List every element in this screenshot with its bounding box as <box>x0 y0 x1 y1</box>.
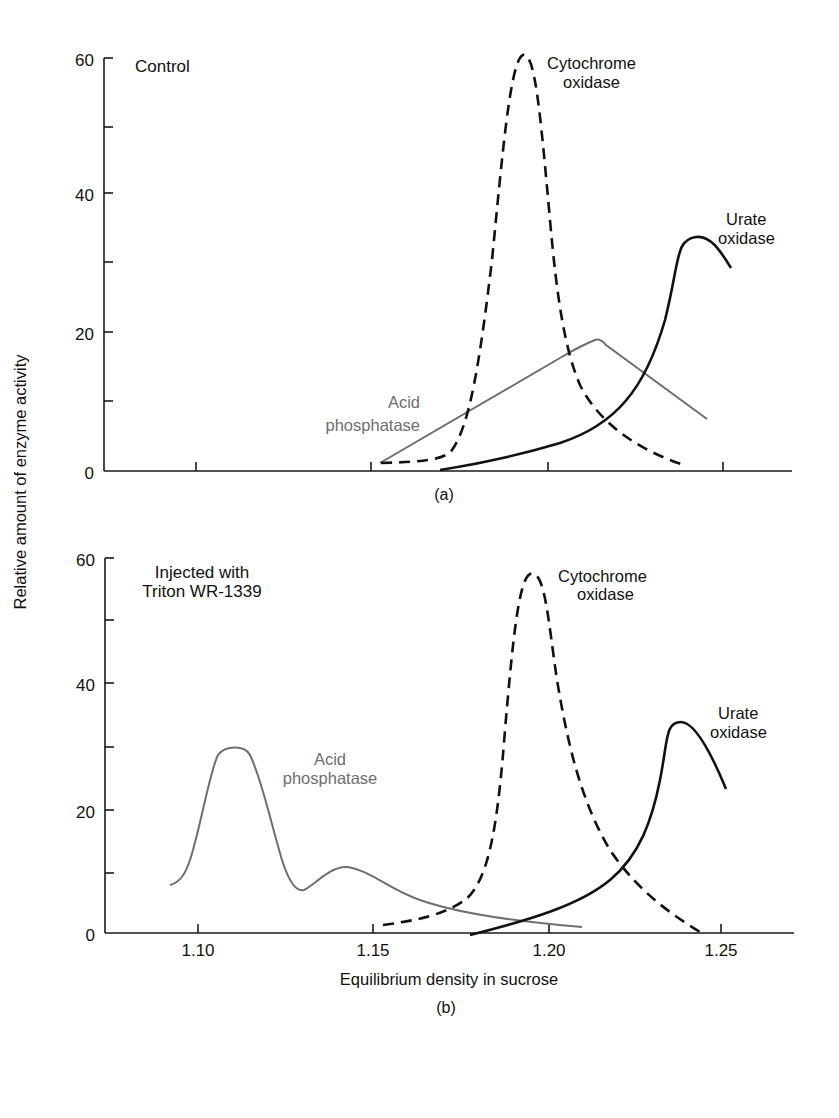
panel-a-tag: (a) <box>434 486 454 503</box>
enzyme-distribution-figure: Relative amount of enzyme activity 60 40… <box>0 0 839 1118</box>
panel-a-urate-label-line1: Urate <box>726 210 766 228</box>
panel-a-ytick-60: 60 <box>75 51 94 70</box>
y-axis-title: Relative amount of enzyme activity <box>11 354 29 610</box>
panel-b-xtick-120: 1.20 <box>532 941 565 960</box>
panel-b-ytick-60: 60 <box>76 551 95 570</box>
x-axis-title: Equilibrium density in sucrose <box>340 970 558 988</box>
panel-a-urate-oxidase-curve <box>440 237 731 470</box>
panel-a-acid-label-line2: phosphatase <box>326 416 421 434</box>
panel-a-urate-label-line2: oxidase <box>718 229 775 247</box>
panel-a-cytochrome-label-line2: oxidase <box>563 73 620 91</box>
panel-b-acid-label-line2: phosphatase <box>283 769 378 787</box>
panel-b-cytochrome-label-line1: Cytochrome <box>558 567 647 585</box>
panel-b-ytick-40: 40 <box>76 676 95 695</box>
panel-b-cytochrome-label-line2: oxidase <box>577 585 634 603</box>
panel-b-urate-label-line1: Urate <box>718 704 758 722</box>
panel-b-urate-label-line2: oxidase <box>710 723 767 741</box>
panel-b-xtick-125: 1.25 <box>704 941 737 960</box>
panel-a-acid-phosphatase-curve <box>380 340 707 463</box>
panel-a-cytochrome-oxidase-curve <box>381 55 681 464</box>
panel-a-ytick-20: 20 <box>75 325 94 344</box>
panel-a-ytick-0: 0 <box>85 464 94 483</box>
panel-b-tag: (b) <box>436 999 456 1016</box>
panel-b-condition-label-line1: Injected with <box>155 563 250 582</box>
panel-b-condition-label-line2: Triton WR-1339 <box>142 582 261 601</box>
panel-a-condition-label: Control <box>135 57 190 76</box>
panel-b-xtick-110: 1.10 <box>181 941 214 960</box>
panel-b-xtick-115: 1.15 <box>356 941 389 960</box>
panel-b-acid-label-line1: Acid <box>314 750 346 768</box>
panel-b-triton: 60 40 20 0 1.10 1.15 1.20 1.25 Injected … <box>76 551 794 1016</box>
panel-b-cytochrome-oxidase-curve <box>383 574 705 935</box>
panel-b-ytick-20: 20 <box>76 803 95 822</box>
panel-a-axes <box>104 58 792 471</box>
panel-b-ytick-0: 0 <box>86 926 95 945</box>
panel-a-acid-label-line1: Acid <box>388 393 420 411</box>
panel-a-cytochrome-label-line1: Cytochrome <box>547 54 636 72</box>
panel-b-axes <box>105 558 794 933</box>
panel-a-ytick-40: 40 <box>75 186 94 205</box>
panel-a-control: 60 40 20 0 Control Cytochrome oxidase Ur… <box>75 51 792 503</box>
